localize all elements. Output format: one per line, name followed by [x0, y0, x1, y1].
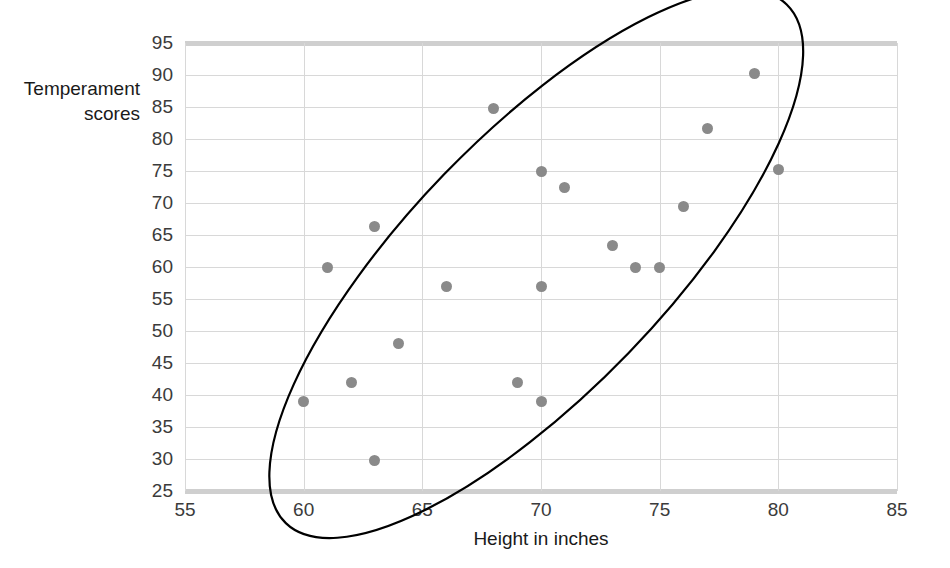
data-point [678, 201, 689, 212]
y-axis-tick-label: 80 [133, 128, 173, 150]
x-axis-tick-label: 55 [160, 499, 210, 521]
data-point [536, 396, 547, 407]
x-axis-tick-label: 60 [279, 499, 329, 521]
y-axis-tick-label: 35 [133, 416, 173, 438]
data-point [536, 281, 547, 292]
data-point [559, 182, 570, 193]
data-point [654, 262, 665, 273]
data-point [322, 262, 333, 273]
data-point [607, 240, 618, 251]
data-point [702, 123, 713, 134]
y-axis-tick-label: 90 [133, 64, 173, 86]
gridline-vertical [897, 43, 898, 491]
y-axis-tick-label: 65 [133, 224, 173, 246]
data-point [346, 377, 357, 388]
x-axis-tick-label: 70 [516, 499, 566, 521]
y-axis-tick-label: 55 [133, 288, 173, 310]
y-axis-title-line2: scores [0, 101, 140, 126]
data-point [488, 103, 499, 114]
x-axis-tick-label: 85 [872, 499, 922, 521]
data-point [536, 166, 547, 177]
y-axis-tick-label: 50 [133, 320, 173, 342]
x-axis-tick-label: 65 [397, 499, 447, 521]
y-axis-tick-label: 40 [133, 384, 173, 406]
gridline-vertical [422, 43, 423, 491]
data-point [298, 396, 309, 407]
gridline-vertical [185, 43, 186, 491]
x-axis-tick-label: 80 [753, 499, 803, 521]
data-point [369, 221, 380, 232]
gridline-vertical [304, 43, 305, 491]
data-point [630, 262, 641, 273]
data-point [512, 377, 523, 388]
data-point [773, 164, 784, 175]
y-axis-tick-label: 85 [133, 96, 173, 118]
y-axis-tick-label: 95 [133, 32, 173, 54]
data-point [441, 281, 452, 292]
x-axis-title: Height in inches [185, 528, 897, 550]
data-point [393, 338, 404, 349]
y-axis-tick-label: 30 [133, 448, 173, 470]
x-axis-tick-label: 75 [635, 499, 685, 521]
y-axis-title-line1: Temperament [0, 76, 140, 101]
y-axis-tick-label: 60 [133, 256, 173, 278]
y-axis-tick-label: 70 [133, 192, 173, 214]
y-axis-tick-label: 45 [133, 352, 173, 374]
data-point [749, 68, 760, 79]
plot-area [185, 43, 897, 491]
data-point [369, 455, 380, 466]
gridline-vertical [778, 43, 779, 491]
y-axis-tick-label: 75 [133, 160, 173, 182]
y-axis-title: Temperament scores [0, 76, 140, 126]
gridline-vertical [541, 43, 542, 491]
scatter-chart: Temperament scores 253035404550556065707… [0, 0, 950, 568]
